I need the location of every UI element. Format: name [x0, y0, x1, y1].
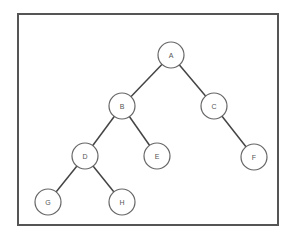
tree-node-e: E: [144, 143, 170, 169]
tree-node-a: A: [158, 42, 184, 68]
tree-node-c: C: [201, 93, 227, 119]
tree-node-d: D: [72, 143, 98, 169]
tree-node-g: G: [35, 189, 61, 215]
node-label: B: [120, 103, 125, 110]
tree-node-f: F: [241, 144, 267, 170]
tree-diagram: ABCDEFGH: [0, 0, 293, 236]
node-label: G: [45, 199, 50, 206]
tree-edges: [48, 55, 254, 202]
node-label: D: [82, 153, 87, 160]
node-label: C: [211, 103, 216, 110]
tree-node-h: H: [109, 189, 135, 215]
node-label: H: [119, 199, 124, 206]
node-label: F: [252, 154, 256, 161]
node-label: A: [169, 52, 174, 59]
node-label: E: [155, 153, 160, 160]
tree-node-b: B: [109, 93, 135, 119]
